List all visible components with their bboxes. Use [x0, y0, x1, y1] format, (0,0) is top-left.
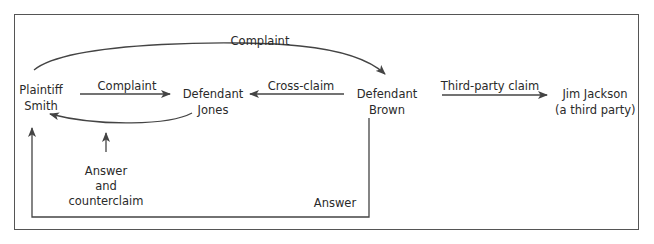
node-jim-jackson: Jim Jackson (a third party): [555, 86, 635, 118]
label-third-party: Third-party claim: [435, 79, 545, 94]
node-defendant-jones: Defendant Jones: [180, 86, 246, 118]
label-complaint-top: Complaint: [200, 34, 320, 49]
label-answer-counterclaim: Answer and counterclaim: [66, 164, 146, 209]
counterclaim-arc-arrow: [50, 113, 192, 123]
node-defendant-brown: Defendant Brown: [354, 86, 420, 118]
label-cross-claim: Cross-claim: [266, 79, 336, 94]
label-complaint-mid: Complaint: [92, 79, 162, 94]
label-answer: Answer: [305, 196, 365, 211]
node-plaintiff-smith: Plaintiff Smith: [16, 82, 66, 114]
